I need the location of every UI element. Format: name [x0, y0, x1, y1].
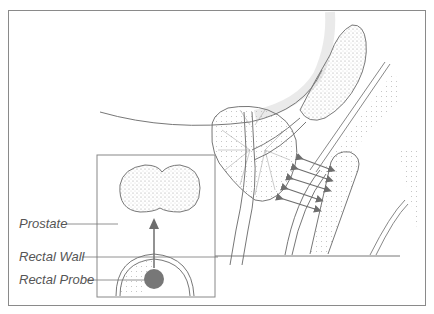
label-rectal-probe: Rectal Probe [19, 272, 94, 287]
label-prostate: Prostate [19, 216, 67, 231]
rectal-probe-side [310, 152, 359, 254]
bladder-shape [100, 12, 330, 125]
label-rectal-wall: Rectal Wall [19, 249, 85, 264]
prostate-side-view [212, 106, 306, 265]
rectal-probe-circle [144, 269, 164, 289]
prostate-cross-section [120, 165, 200, 212]
anatomy-illustration [0, 0, 434, 314]
